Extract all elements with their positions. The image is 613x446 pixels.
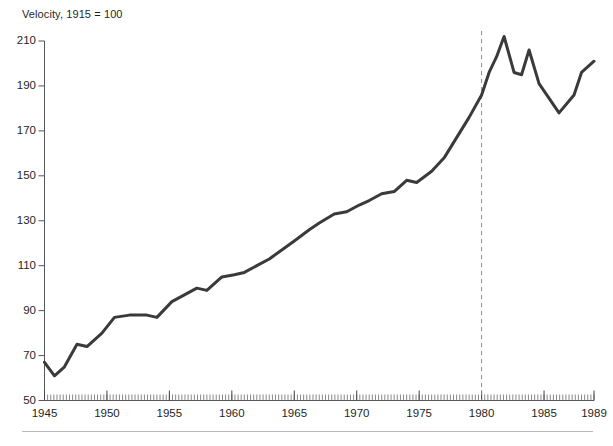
x-tick-label: 1950 bbox=[85, 408, 129, 420]
x-tick-label: 1975 bbox=[397, 408, 441, 420]
x-tick-label: 1955 bbox=[147, 408, 191, 420]
chart-plot-area bbox=[0, 0, 613, 446]
chart-figure: Velocity, 1915 = 100 2101901701501301109… bbox=[0, 0, 613, 446]
x-minor-tick-marks bbox=[45, 395, 595, 401]
x-tick-label: 1980 bbox=[460, 408, 504, 420]
x-tick-label: 1945 bbox=[23, 408, 67, 420]
footer-divider bbox=[22, 431, 593, 432]
x-tick-label: 1989 bbox=[572, 408, 613, 420]
axis-group bbox=[45, 41, 595, 401]
y-tick-label: 90 bbox=[4, 305, 36, 317]
y-tick-label: 130 bbox=[4, 215, 36, 227]
x-tick-label: 1960 bbox=[210, 408, 254, 420]
y-tick-label: 170 bbox=[4, 125, 36, 137]
y-tick-label: 70 bbox=[4, 350, 36, 362]
y-tick-label: 190 bbox=[4, 80, 36, 92]
y-tick-label: 110 bbox=[4, 260, 36, 272]
y-tick-label: 50 bbox=[4, 395, 36, 407]
x-tick-label: 1985 bbox=[522, 408, 566, 420]
y-tick-marks bbox=[39, 41, 45, 401]
x-tick-label: 1965 bbox=[272, 408, 316, 420]
x-tick-label: 1970 bbox=[335, 408, 379, 420]
y-tick-label: 210 bbox=[4, 35, 36, 47]
velocity-series-line bbox=[45, 37, 595, 376]
y-tick-label: 150 bbox=[4, 170, 36, 182]
